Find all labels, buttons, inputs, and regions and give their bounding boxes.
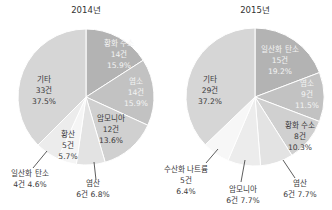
chart-2015: 2015년 일산화 탄소15건19.2%염소9건11.5%황화 수소8건10.3…	[164, 5, 324, 205]
slice-label: 수산화 나트륨5건6.4%	[164, 164, 208, 196]
slice-label: 염산6건 6.8%	[76, 178, 110, 199]
chart-title-2014: 2014년	[71, 5, 101, 15]
pie-charts: 2014년 황화 수소14건15.9%염소14건15.9%암모니아12건13.6…	[0, 0, 332, 210]
chart-2014: 2014년 황화 수소14건15.9%염소14건15.9%암모니아12건13.6…	[11, 5, 154, 199]
chart-title-2015: 2015년	[240, 5, 270, 15]
leader-line	[33, 151, 47, 168]
leader-line	[283, 160, 295, 178]
slice-label: 암모니아6건 7.7%	[226, 184, 260, 205]
slice-label: 일산화 탄소4건 4.6%	[11, 168, 48, 189]
slice-label: 염산6건 7.7%	[283, 178, 317, 199]
